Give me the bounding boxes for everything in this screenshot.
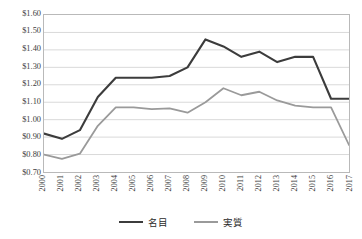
x-axis-tick-label: 2007	[165, 175, 173, 191]
x-axis-tick-label: 2014	[291, 175, 299, 191]
x-axis-tick-label: 2001	[57, 175, 65, 191]
x-axis-tick-label: 2015	[309, 175, 317, 191]
x-axis-tick-label: 2005	[129, 175, 137, 191]
plot-svg	[44, 15, 349, 172]
y-axis-tick-label: $1.20	[22, 80, 41, 88]
x-axis-tick-labels: 2000200120022003200420052006200720082009…	[43, 175, 350, 205]
x-axis-tick-label: 2008	[183, 175, 191, 191]
legend-label: 名目	[148, 215, 168, 229]
x-axis-tick-label: 2012	[255, 175, 263, 191]
x-axis-tick-label: 2017	[346, 175, 354, 191]
x-axis-tick-label: 2016	[327, 175, 335, 191]
x-axis-tick-label: 2006	[147, 175, 155, 191]
y-axis-tick-label: $0.90	[22, 133, 41, 141]
series-line	[44, 39, 349, 138]
x-axis-tick-label: 2004	[111, 175, 119, 191]
legend-item[interactable]: 実質	[194, 215, 243, 229]
y-axis-tick-label: $1.00	[22, 116, 41, 124]
x-axis-tick-label: 2010	[219, 175, 227, 191]
y-axis-tick-labels: $1.60$1.50$1.40$1.30$1.20$1.10$1.00$0.90…	[0, 0, 41, 239]
legend-line-swatch	[119, 221, 143, 223]
x-axis-tick-label: 2013	[273, 175, 281, 191]
y-axis-tick-label: $1.50	[22, 27, 41, 35]
plot-area	[43, 14, 350, 173]
y-axis-tick-label: $1.40	[22, 45, 41, 53]
y-axis-tick-label: $1.60	[22, 10, 41, 18]
series-line	[44, 88, 349, 159]
y-axis-tick-label: $1.10	[22, 98, 41, 106]
x-axis-tick-label: 2002	[75, 175, 83, 191]
y-axis-tick-label: $0.80	[22, 151, 41, 159]
x-axis-tick-label: 2009	[201, 175, 209, 191]
x-axis-tick-label: 2011	[237, 175, 245, 191]
legend-item[interactable]: 名目	[119, 215, 168, 229]
y-axis-tick-label: $1.30	[22, 63, 41, 71]
x-axis-tick-label: 2000	[39, 175, 47, 191]
line-chart: $1.60$1.50$1.40$1.30$1.20$1.10$1.00$0.90…	[0, 0, 362, 239]
legend-line-swatch	[194, 221, 218, 223]
chart-legend: 名目実質	[0, 209, 362, 235]
legend-label: 実質	[223, 215, 243, 229]
x-axis-tick-label: 2003	[93, 175, 101, 191]
